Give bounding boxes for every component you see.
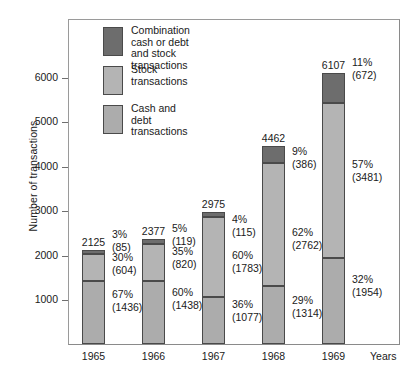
annotation-percent: 4%	[232, 213, 256, 226]
annotation-count: (820)	[172, 258, 197, 271]
bar-segment	[82, 254, 105, 281]
bar-total-label: 2975	[191, 198, 237, 210]
bar-segment	[202, 217, 225, 296]
annotation-percent: 57%	[352, 158, 382, 171]
annotation-count: (1314)	[292, 307, 322, 320]
bar-total-label: 4462	[251, 132, 297, 144]
bar-1968	[262, 0, 285, 384]
bar-total-label: 2125	[71, 236, 117, 248]
bar-total-label: 2377	[131, 225, 177, 237]
legend-item: Stock transactions	[103, 65, 253, 95]
legend-swatch-combination-icon	[103, 27, 123, 56]
annotation-percent: 36%	[232, 298, 262, 311]
annotation-percent: 9%	[292, 145, 317, 158]
segment-annotation: 11%(672)	[352, 56, 377, 81]
legend-label: Cash and debt transactions	[131, 103, 188, 138]
annotation-percent: 5%	[172, 222, 196, 235]
y-tick-label: 6000	[0, 71, 58, 83]
bar-segment	[142, 281, 165, 345]
annotation-count: (2762)	[292, 239, 322, 252]
bar-1965	[82, 0, 105, 384]
segment-annotation: 29%(1314)	[292, 294, 322, 319]
annotation-percent: 62%	[292, 226, 322, 239]
bar-segment	[322, 258, 345, 345]
segment-annotation: 67%(1436)	[112, 288, 142, 313]
bar-segment	[82, 250, 105, 254]
y-tick-label: 4000	[0, 160, 58, 172]
annotation-count: (604)	[112, 264, 137, 277]
segment-annotation: 5%(119)	[172, 222, 196, 247]
bar-segment	[82, 281, 105, 345]
segment-annotation: 32%(1954)	[352, 273, 382, 298]
annotation-count: (386)	[292, 158, 317, 171]
y-tick-label: 2000	[0, 249, 58, 261]
segment-annotation: 3%(85)	[112, 228, 131, 253]
bar-segment	[262, 286, 285, 344]
bar-segment	[262, 146, 285, 163]
annotation-percent: 67%	[112, 288, 142, 301]
y-tick-label: 5000	[0, 115, 58, 127]
annotation-percent: 32%	[352, 273, 382, 286]
segment-annotation: 9%(386)	[292, 145, 317, 170]
segment-annotation: 36%(1077)	[232, 298, 262, 323]
annotation-count: (3481)	[352, 171, 382, 184]
bar-segment	[262, 163, 285, 286]
segment-annotation: 35%(820)	[172, 245, 197, 270]
y-tick-label: 3000	[0, 204, 58, 216]
bar-segment	[322, 73, 345, 103]
legend: Combination cash or debt and stock trans…	[103, 26, 253, 143]
bar-segment	[202, 297, 225, 345]
annotation-percent: 11%	[352, 56, 377, 69]
legend-swatch-cash-debt-icon	[103, 105, 123, 134]
x-tick-label: 1967	[191, 350, 237, 362]
bar-total-label: 6107	[311, 59, 357, 71]
x-tick-label: 1966	[131, 350, 177, 362]
annotation-count: (672)	[352, 69, 377, 82]
stacked-bar-chart: Number of transactions 10002000300040005…	[0, 0, 419, 384]
annotation-count: (1436)	[112, 301, 142, 314]
bar-segment	[142, 244, 165, 280]
bar-segment	[202, 212, 225, 217]
annotation-count: (1783)	[232, 262, 262, 275]
annotation-count: (1438)	[172, 299, 202, 312]
x-tick-label: 1969	[311, 350, 357, 362]
legend-item: Combination cash or debt and stock trans…	[103, 26, 253, 56]
segment-annotation: 60%(1783)	[232, 249, 262, 274]
annotation-count: (115)	[232, 226, 256, 239]
annotation-count: (1077)	[232, 311, 262, 324]
annotation-percent: 60%	[172, 286, 202, 299]
x-axis-title: Years	[370, 350, 396, 362]
legend-item: Cash and debt transactions	[103, 104, 253, 134]
annotation-percent: 29%	[292, 294, 322, 307]
segment-annotation: 62%(2762)	[292, 226, 322, 251]
x-tick-label: 1965	[71, 350, 117, 362]
legend-swatch-stock-icon	[103, 66, 123, 95]
segment-annotation: 30%(604)	[112, 251, 137, 276]
y-tick-label: 1000	[0, 293, 58, 305]
annotation-percent: 60%	[232, 249, 262, 262]
x-tick-label: 1968	[251, 350, 297, 362]
bar-segment	[142, 239, 165, 244]
annotation-percent: 30%	[112, 251, 137, 264]
segment-annotation: 57%(3481)	[352, 158, 382, 183]
annotation-count: (1954)	[352, 286, 382, 299]
segment-annotation: 60%(1438)	[172, 286, 202, 311]
annotation-percent: 35%	[172, 245, 197, 258]
bar-segment	[322, 103, 345, 258]
annotation-percent: 3%	[112, 228, 131, 241]
segment-annotation: 4%(115)	[232, 213, 256, 238]
legend-label: Stock transactions	[131, 64, 188, 87]
bar-1969	[322, 0, 345, 384]
y-axis-title: Number of transactions	[27, 81, 39, 271]
